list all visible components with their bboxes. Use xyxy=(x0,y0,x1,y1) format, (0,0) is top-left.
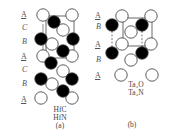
panel-b-atoms xyxy=(106,10,158,81)
crystal-structure-figure: A C B A C B A HfC HfN (a) A B A B A Ta₂O… xyxy=(0,0,172,139)
layer-label-c: C xyxy=(22,24,27,32)
filled-atom xyxy=(106,19,118,31)
layer-label-c: C xyxy=(22,66,27,74)
filled-atom xyxy=(57,45,69,57)
filled-atom xyxy=(67,33,79,45)
open-atom xyxy=(116,10,128,22)
layer-label-a: A xyxy=(95,12,100,20)
layer-label-a: A xyxy=(21,11,26,19)
panel-a-caption: (a) xyxy=(48,122,72,130)
open-atom xyxy=(116,38,128,50)
layer-label-a: A xyxy=(21,53,26,61)
open-atom xyxy=(46,38,58,50)
panel-a-atoms xyxy=(35,9,79,104)
open-atom xyxy=(66,9,78,21)
layer-label-b: B xyxy=(96,56,101,64)
panel-b-caption: (b) xyxy=(120,121,144,129)
filled-atom xyxy=(66,73,78,85)
layer-label-a: A xyxy=(95,41,100,49)
open-atom xyxy=(35,92,47,104)
layer-label-b: B xyxy=(96,23,101,31)
open-atom xyxy=(146,69,158,81)
open-atom xyxy=(115,69,127,81)
open-atom xyxy=(125,54,137,66)
filled-atom xyxy=(106,47,118,59)
layer-label-b: B xyxy=(22,38,27,46)
compound-ta2n: Ta₂N xyxy=(124,89,148,97)
open-atom xyxy=(46,78,58,90)
open-atom xyxy=(37,9,49,21)
layer-label-a: A xyxy=(95,72,100,80)
filled-atom xyxy=(136,47,148,59)
filled-atom xyxy=(35,73,47,85)
filled-atom xyxy=(48,16,60,28)
filled-atom xyxy=(45,57,57,69)
open-atom xyxy=(125,26,137,38)
filled-atom xyxy=(57,85,69,97)
filled-atom xyxy=(35,33,47,45)
filled-atom xyxy=(136,19,148,31)
layer-label-b: B xyxy=(22,80,27,88)
layer-label-a: A xyxy=(21,96,26,104)
